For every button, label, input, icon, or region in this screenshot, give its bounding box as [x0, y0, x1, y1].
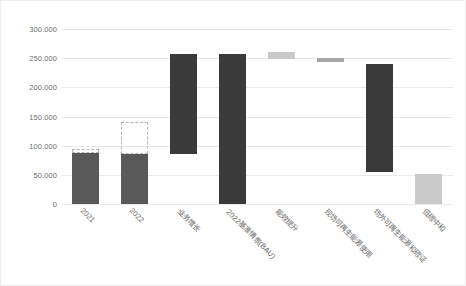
x-axis-tick-label: 业务增长: [175, 206, 203, 234]
bar-slot: [306, 29, 355, 204]
x-axis-label-slot: 低碳中和: [404, 204, 453, 284]
y-axis-tick-label: 100.000: [5, 141, 57, 150]
x-axis-tick-label: 能效提升: [273, 206, 301, 234]
y-axis-tick-label: 250.000: [5, 54, 57, 63]
bar-projection-outline: [121, 122, 148, 154]
x-axis-tick-label: 低碳中和: [420, 206, 448, 234]
x-axis-tick-label: 2021: [79, 206, 97, 224]
bar[interactable]: [170, 54, 197, 155]
y-axis: 300.000250.000200.000150.000100.00050.00…: [1, 29, 57, 204]
x-axis-labels: 20212022业务增长2022基准情景(BAU)能效提升现场可再生能源使用场外…: [61, 204, 453, 284]
y-axis-tick-label: 150.000: [5, 112, 57, 121]
bar[interactable]: [366, 64, 393, 172]
x-axis-label-slot: 2022基准情景(BAU): [208, 204, 257, 284]
x-axis-label-slot: 现场可再生能源使用: [306, 204, 355, 284]
y-axis-tick-label: 50.000: [5, 170, 57, 179]
bar-slot: [159, 29, 208, 204]
y-axis-tick-label: 300.000: [5, 25, 57, 34]
y-axis-tick-label: 0: [5, 200, 57, 209]
bar-slot: [208, 29, 257, 204]
x-axis-label-slot: 场外可再生能源和碳证: [355, 204, 404, 284]
plot-area: [61, 29, 453, 204]
x-axis-label-slot: 业务增长: [159, 204, 208, 284]
y-axis-tick-label: 200.000: [5, 83, 57, 92]
x-axis-label-slot: 2021: [61, 204, 110, 284]
waterfall-chart-card: 300.000250.000200.000150.000100.00050.00…: [0, 0, 466, 286]
bar[interactable]: [415, 174, 442, 204]
x-axis-label-slot: 2022: [110, 204, 159, 284]
bar[interactable]: [268, 52, 295, 59]
bar[interactable]: [121, 154, 148, 204]
bar[interactable]: [219, 54, 246, 205]
bar-slot: [257, 29, 306, 204]
bar-slot: [355, 29, 404, 204]
x-axis-label-slot: 能效提升: [257, 204, 306, 284]
x-axis-tick-label: 2022: [128, 206, 146, 224]
bar[interactable]: [317, 58, 344, 62]
bar-slot: [110, 29, 159, 204]
bar-slot: [404, 29, 453, 204]
bar-slot: [61, 29, 110, 204]
bar[interactable]: [72, 153, 99, 204]
